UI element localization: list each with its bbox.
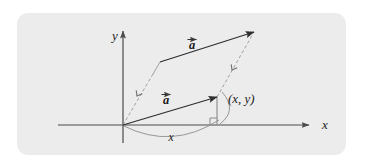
vector-a-upper-label: a: [189, 38, 195, 52]
y-axis-label: y: [110, 28, 118, 43]
x-component-label: x: [167, 131, 174, 143]
figure-canvas: x y x: [0, 0, 390, 168]
x-axis-label: x: [321, 117, 328, 132]
vector-diagram-figure: x y x: [0, 0, 390, 168]
vector-a-upper-label-group: a: [188, 38, 197, 52]
vector-a-lower-label: a: [163, 93, 169, 107]
figure-background-panel: [17, 13, 346, 155]
vector-a-lower-label-group: a: [162, 93, 171, 107]
point-coordinate-label: (x, y): [228, 91, 255, 106]
